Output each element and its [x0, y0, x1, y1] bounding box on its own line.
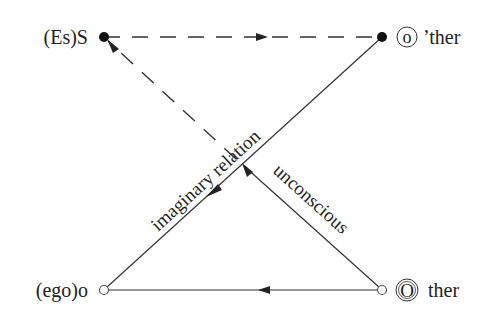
svg-text:O: O [400, 280, 414, 301]
edge-top-dashed [104, 33, 382, 41]
node-o-ther-dot [377, 32, 387, 42]
edge-bottom [107, 286, 378, 294]
svg-text:o: o [403, 27, 412, 47]
label-o-ther: o ’ther [397, 26, 461, 48]
svg-text:ther: ther [428, 279, 459, 301]
schema-l-diagram: (Es)S o ’ther (ego)o O ther imaginary re… [0, 0, 492, 321]
label-imaginary-relation: imaginary relation [147, 125, 265, 235]
arrow-up-left-icon [242, 163, 253, 177]
label-ego-o: (ego)o [36, 279, 88, 302]
label-es-s: (Es)S [44, 26, 88, 49]
node-es-s-dot [99, 32, 109, 42]
arrow-right-icon [256, 33, 268, 41]
arrow-up-left-icon [107, 39, 119, 53]
edge-imaginary-relation [106, 37, 382, 288]
node-ego-o-open [100, 286, 109, 295]
arrow-left-icon [258, 286, 270, 294]
label-other: O ther [396, 279, 459, 301]
svg-text:’ther: ’ther [423, 26, 461, 48]
node-other-open [378, 286, 387, 295]
